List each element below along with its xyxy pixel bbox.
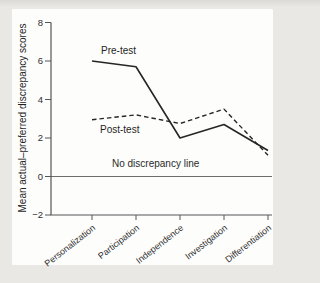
y-tick-label: 0 <box>38 171 43 182</box>
x-category-label: Investigation <box>183 223 229 262</box>
y-tick-label: 6 <box>38 55 43 66</box>
y-axis-ticks: 86420−2 <box>32 17 51 221</box>
pre-test-label: Pre-test <box>101 45 136 56</box>
x-category-label: Independence <box>134 223 185 266</box>
series-lines <box>92 61 268 155</box>
y-tick-label: 8 <box>38 17 43 28</box>
x-category-label: Participation <box>96 223 141 261</box>
series-line-pre-test <box>92 61 268 151</box>
y-tick-label: −2 <box>32 209 43 220</box>
y-tick-label: 4 <box>38 94 43 105</box>
figure-background: 86420−2 PersonalizationParticipationInde… <box>0 0 286 283</box>
x-category-label: Differentiation <box>223 223 273 265</box>
post-test-label: Post-test <box>100 124 140 135</box>
y-axis-title: Mean actual–preferred discrepancy scores <box>17 24 28 213</box>
axis-spine <box>51 23 272 216</box>
line-chart: 86420−2 PersonalizationParticipationInde… <box>0 0 286 283</box>
no-discrepancy-label: No discrepancy line <box>112 158 200 169</box>
x-category-label: Personalization <box>43 223 98 269</box>
x-axis-ticks: PersonalizationParticipationIndependence… <box>43 215 274 268</box>
y-tick-label: 2 <box>38 132 43 143</box>
